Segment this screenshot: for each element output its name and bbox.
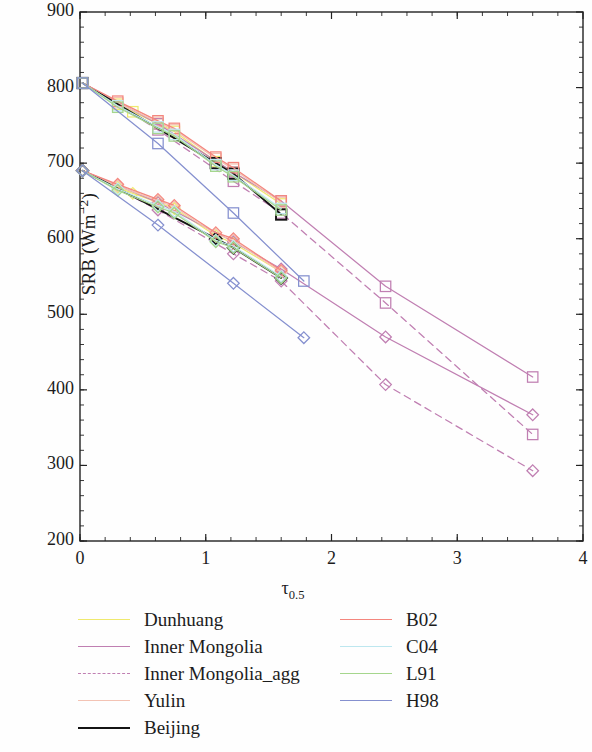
data-series bbox=[77, 78, 286, 220]
y-tick-label: 500 bbox=[22, 302, 74, 323]
legend-label: B02 bbox=[406, 606, 438, 633]
legend-label: H98 bbox=[406, 687, 439, 714]
legend-swatch-line bbox=[340, 673, 392, 674]
legend-label: Inner Mongolia bbox=[144, 633, 263, 660]
legend-label: Dunhuang bbox=[144, 606, 223, 633]
y-tick-label: 300 bbox=[22, 453, 74, 474]
legend-swatch-line bbox=[78, 727, 130, 729]
series-layer bbox=[77, 78, 539, 477]
y-axis-label: SRB (Wm−2) bbox=[76, 154, 100, 334]
legend-label: L91 bbox=[406, 660, 437, 687]
legend-swatch-line bbox=[340, 619, 392, 620]
legend-label: Yulin bbox=[144, 687, 185, 714]
x-axis-label: τ0.5 bbox=[0, 578, 586, 603]
data-series bbox=[77, 78, 538, 440]
plot-frame bbox=[80, 12, 583, 541]
y-tick-label: 900 bbox=[22, 0, 74, 21]
legend-swatch-line bbox=[78, 646, 130, 647]
x-tick-label: 2 bbox=[312, 548, 352, 569]
y-tick-label: 200 bbox=[22, 529, 74, 550]
y-tick-label: 700 bbox=[22, 151, 74, 172]
x-tick-label: 1 bbox=[186, 548, 226, 569]
x-tick-label: 4 bbox=[563, 548, 592, 569]
legend-swatch-line bbox=[78, 700, 130, 701]
legend-label: Inner Mongolia_agg bbox=[144, 660, 300, 687]
y-tick-label: 400 bbox=[22, 378, 74, 399]
y-tick-label: 800 bbox=[22, 76, 74, 97]
legend-swatch-line bbox=[340, 646, 392, 647]
data-series bbox=[77, 165, 310, 344]
axis-ticks bbox=[80, 12, 583, 541]
x-tick-label: 0 bbox=[60, 548, 100, 569]
data-series bbox=[77, 165, 539, 477]
legend-swatch-line bbox=[78, 673, 130, 674]
legend-label: Beijing bbox=[144, 714, 200, 741]
chart-legend: DunhuangInner MongoliaInner Mongolia_agg… bbox=[0, 606, 586, 752]
legend-swatch-line bbox=[78, 619, 130, 620]
legend-label: C04 bbox=[406, 633, 438, 660]
y-tick-label: 600 bbox=[22, 227, 74, 248]
legend-swatch-line bbox=[340, 700, 392, 701]
x-tick-label: 3 bbox=[437, 548, 477, 569]
